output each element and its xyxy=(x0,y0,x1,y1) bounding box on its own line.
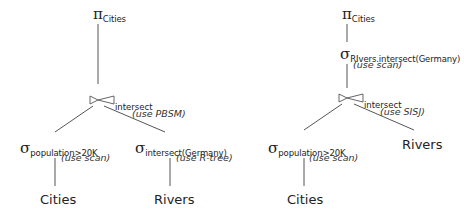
join-icon-right-a xyxy=(339,94,347,102)
join-icon-left-b xyxy=(98,96,114,104)
leaf-rivers-left: Rivers xyxy=(154,193,194,206)
right-projection: πCities xyxy=(342,6,375,22)
sigma-icon: σ xyxy=(20,139,30,157)
right-select-note: (use R-tree) xyxy=(176,153,233,163)
sigma-icon: σ xyxy=(340,45,350,63)
right-join-note: (use SISJ) xyxy=(380,107,425,117)
leaf-cities-left: Cities xyxy=(40,193,76,206)
leaf-rivers-right: Rivers xyxy=(402,138,442,151)
leaf-cities-right: Cities xyxy=(287,193,323,206)
left-join-note: (use PBSM) xyxy=(132,109,186,119)
pi-icon: π xyxy=(342,5,352,23)
right-top-select-note: (use scan) xyxy=(353,60,402,70)
sigma-icon: σ xyxy=(268,139,278,157)
right-left-select-note: (use scan) xyxy=(309,153,358,163)
left-projection: πCities xyxy=(93,6,126,22)
pi-icon: π xyxy=(93,5,103,23)
join-icon-left-a xyxy=(90,96,98,104)
join-icon-right-b xyxy=(347,94,363,102)
left-select-note: (use scan) xyxy=(61,153,110,163)
sigma-icon: σ xyxy=(135,139,145,157)
